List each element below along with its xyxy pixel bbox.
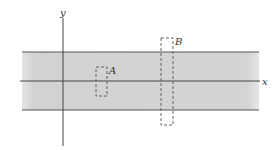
region-a-label: A	[108, 65, 116, 76]
region-b-label: B	[174, 36, 182, 47]
x-axis-label: x	[262, 76, 268, 87]
y-axis-label: y	[59, 7, 66, 18]
diagram-canvas: x y A B	[0, 0, 279, 150]
